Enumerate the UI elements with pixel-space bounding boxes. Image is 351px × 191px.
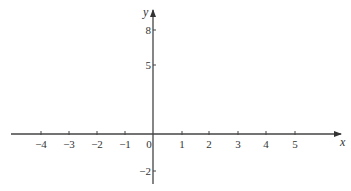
y-tick-label: 8 xyxy=(146,24,152,36)
x-tick-label: −4 xyxy=(35,138,47,150)
x-tick-label: 5 xyxy=(292,138,298,150)
x-tick-label: 4 xyxy=(263,138,269,150)
x-axis-label: x xyxy=(339,135,346,149)
x-tick-label: −1 xyxy=(119,138,131,150)
x-tick-label: 3 xyxy=(235,138,241,150)
x-axis: −4−3−2−1012345 xyxy=(11,131,341,150)
x-tick-label: 1 xyxy=(179,138,185,150)
x-tick-label: −3 xyxy=(63,138,75,150)
y-tick-label: −2 xyxy=(139,165,151,177)
y-axis: −258 xyxy=(139,10,156,184)
y-tick-label: 5 xyxy=(146,59,152,71)
x-tick-label: 2 xyxy=(206,138,212,150)
y-axis-label: y xyxy=(142,5,149,19)
x-tick-label: 0 xyxy=(146,138,152,150)
coordinate-plane: −4−3−2−1012345 −258 x y xyxy=(0,0,351,191)
x-tick-label: −2 xyxy=(91,138,103,150)
